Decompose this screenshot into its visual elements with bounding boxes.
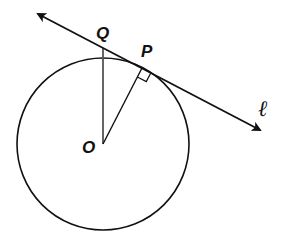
tangent-line-l (38, 14, 260, 130)
label-o: O (82, 138, 95, 157)
geometry-diagram: Q P O ℓ (0, 0, 284, 243)
label-p: P (141, 42, 153, 61)
label-line-l: ℓ (258, 96, 268, 121)
segment-op (103, 68, 142, 144)
label-q: Q (96, 24, 109, 43)
